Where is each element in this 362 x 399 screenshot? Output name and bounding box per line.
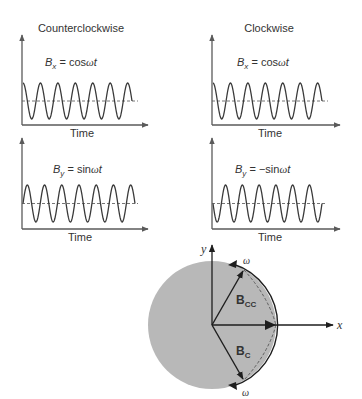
- panel-ccw-by: By = sinωtTime: [22, 138, 148, 243]
- formula-label: By = sinωt: [53, 163, 103, 178]
- x-axis-label: x: [336, 318, 343, 332]
- panel-cw-by: By = −sinωtTime: [212, 138, 340, 243]
- waveform-panels: Bx = cosωtTimeBx = cosωtTimeBy = sinωtTi…: [22, 35, 340, 243]
- omega-label-bottom: ω: [242, 387, 249, 398]
- formula-label: Bx = cosωt: [237, 56, 290, 71]
- formula-label: By = −sinωt: [235, 163, 291, 178]
- x-axis-label: Time: [70, 127, 94, 139]
- phasor-diagram: ω ω y x BCC BC: [148, 242, 343, 398]
- x-axis-label: Time: [68, 231, 92, 243]
- omega-label-top: ω: [243, 255, 250, 266]
- panel-ccw-bx: Bx = cosωtTime: [22, 35, 148, 139]
- y-axis-label: y: [200, 242, 207, 256]
- rotating-field-diagram: Counterclockwise Clockwise Bx = cosωtTim…: [0, 0, 362, 399]
- panel-cw-bx: Bx = cosωtTime: [212, 35, 340, 139]
- column-title-counterclockwise: Counterclockwise: [38, 22, 124, 34]
- formula-label: Bx = cosωt: [45, 56, 98, 71]
- x-axis-label: Time: [258, 231, 282, 243]
- x-axis-label: Time: [258, 127, 282, 139]
- column-title-clockwise: Clockwise: [244, 22, 294, 34]
